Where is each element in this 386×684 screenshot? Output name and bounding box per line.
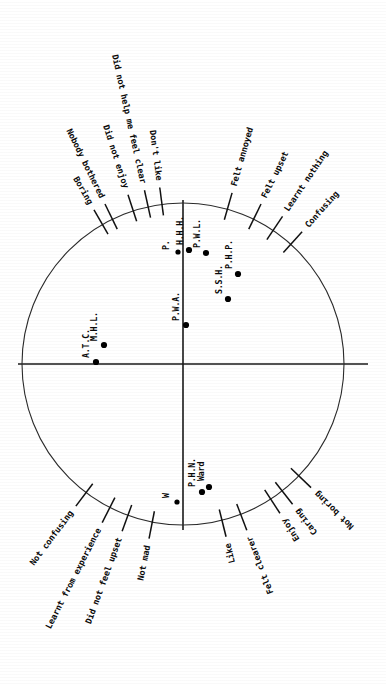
spoke-tick bbox=[102, 498, 115, 523]
spoke-tick bbox=[105, 204, 117, 229]
spoke-label: Felt annoyed bbox=[229, 126, 255, 187]
spoke-tick bbox=[237, 504, 247, 530]
data-point bbox=[183, 322, 189, 328]
data-point-label: M.H.L. bbox=[89, 312, 99, 341]
spoke-label: Not boring bbox=[312, 489, 355, 531]
data-point-label: H.H.H. bbox=[175, 216, 185, 245]
data-point-label: P. bbox=[161, 240, 171, 250]
spoke-label: Not confusing bbox=[28, 508, 76, 567]
spoke-label: Did not enjoy bbox=[101, 124, 131, 190]
data-point-label: P.H.P. bbox=[224, 240, 234, 269]
data-point bbox=[206, 484, 212, 490]
spoke-label: Not mad bbox=[136, 545, 153, 582]
data-point bbox=[203, 250, 209, 256]
data-point-label: P.W.L. bbox=[192, 219, 202, 248]
data-point bbox=[235, 271, 241, 277]
data-point bbox=[199, 489, 205, 495]
spoke-label: Felt upset bbox=[259, 150, 290, 200]
spoke-tick bbox=[219, 510, 226, 537]
spoke-tick bbox=[94, 210, 108, 234]
data-point bbox=[101, 342, 107, 348]
data-point-label: Ward bbox=[196, 462, 206, 481]
data-point-label: P.W.A. bbox=[171, 292, 181, 321]
data-point bbox=[93, 359, 99, 365]
spoke-tick bbox=[249, 204, 261, 229]
data-point-label: S.S.H. bbox=[214, 265, 224, 294]
spoke-tick bbox=[128, 195, 137, 222]
spoke-tick bbox=[144, 190, 150, 217]
data-point-label: W bbox=[161, 493, 171, 498]
data-point bbox=[174, 499, 179, 504]
data-point-labels-group: A.T.C.M.H.L.P.W.A.P.H.H.H.P.W.L.S.S.H.P.… bbox=[81, 216, 234, 498]
spoke-tick bbox=[275, 482, 292, 504]
spoke-label: Don't like bbox=[148, 130, 165, 182]
spoke-tick bbox=[149, 511, 154, 538]
spoke-tick bbox=[224, 193, 232, 220]
data-point bbox=[225, 296, 231, 302]
circular-scatter-plot: BoringNobody botheredDid not enjoyDid no… bbox=[0, 0, 386, 684]
figure-canvas: BoringNobody botheredDid not enjoyDid no… bbox=[0, 0, 386, 684]
spoke-tick bbox=[122, 505, 132, 531]
spoke-label: Confusing bbox=[303, 189, 341, 230]
data-point bbox=[175, 249, 180, 254]
spoke-label: Like bbox=[222, 542, 237, 564]
spoke-tick bbox=[160, 188, 164, 216]
spoke-tick bbox=[291, 468, 311, 487]
spoke-tick bbox=[283, 232, 302, 253]
spoke-label: Felt clearer bbox=[244, 535, 275, 595]
spoke-labels-group: BoringNobody botheredDid not enjoyDid no… bbox=[28, 53, 356, 630]
